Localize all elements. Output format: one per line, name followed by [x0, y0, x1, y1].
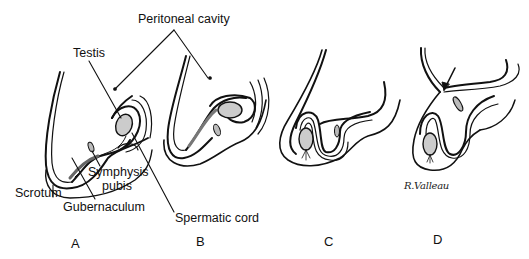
- label-scrotum: Scrotum: [15, 187, 62, 200]
- label-symphysis-pubis-line1: Symphysis: [88, 166, 148, 179]
- label-testis: Testis: [73, 47, 105, 60]
- panel-letter-a: A: [71, 237, 80, 250]
- panel-d-drawing: [413, 48, 519, 170]
- label-spermatic-cord: Spermatic cord: [175, 212, 259, 225]
- diagram-drawing: [0, 0, 529, 259]
- descent-of-testis-diagram: Peritoneal cavity Testis Symphysis pubis…: [0, 0, 529, 259]
- label-gubernaculum: Gubernaculum: [63, 201, 145, 214]
- panel-letter-b: B: [196, 235, 205, 248]
- label-symphysis-pubis-line2: pubis: [102, 180, 132, 193]
- panel-c-drawing: [280, 50, 400, 166]
- panel-letter-c: C: [324, 235, 333, 248]
- artist-signature: R.Valleau: [404, 180, 449, 191]
- panel-a-drawing: [46, 72, 152, 198]
- label-peritoneal-cavity: Peritoneal cavity: [138, 13, 230, 26]
- panel-b-drawing: [164, 56, 269, 166]
- panel-letter-d: D: [433, 233, 442, 246]
